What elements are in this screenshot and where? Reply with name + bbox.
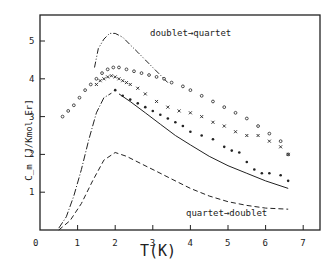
marker-dot: [268, 172, 271, 175]
marker-dot: [144, 106, 147, 109]
marker-dot: [174, 121, 177, 124]
y-tick-label: 5: [29, 36, 34, 46]
marker-cross: [155, 100, 158, 103]
marker-cross: [102, 77, 105, 80]
marker-cross: [257, 134, 260, 137]
marker-open-circle: [212, 100, 215, 103]
marker-open-circle: [170, 81, 173, 84]
marker-open-circle: [78, 96, 81, 99]
plot-area: 0123456712345: [0, 0, 335, 266]
marker-open-circle: [133, 70, 136, 73]
marker-open-circle: [155, 76, 158, 79]
y-tick-label: 1: [29, 187, 34, 197]
marker-open-circle: [163, 77, 166, 80]
x-tick-label: 4: [187, 238, 192, 248]
marker-cross: [114, 75, 117, 78]
marker-cross: [178, 109, 181, 112]
marker-dot: [279, 174, 282, 177]
marker-open-circle: [67, 110, 70, 113]
y-axis-label: C_m [J/Kmol Er]: [24, 99, 34, 180]
marker-dot: [152, 110, 155, 113]
marker-open-circle: [189, 89, 192, 92]
marker-cross: [223, 125, 226, 128]
marker-cross: [129, 83, 132, 86]
marker-open-circle: [89, 83, 92, 86]
marker-dot: [253, 168, 256, 171]
marker-cross: [200, 115, 203, 118]
x-tick-label: 1: [75, 238, 80, 248]
x-tick-label: 5: [225, 238, 230, 248]
marker-cross: [245, 134, 248, 137]
marker-open-circle: [106, 68, 109, 71]
plot-frame: [40, 15, 320, 230]
marker-open-circle: [72, 104, 75, 107]
x-axis-label: T(K): [140, 242, 176, 260]
marker-open-circle: [112, 66, 115, 69]
marker-dot: [114, 89, 117, 92]
marker-open-circle: [200, 94, 203, 97]
marker-open-circle: [268, 132, 271, 135]
marker-cross: [125, 81, 128, 84]
marker-dot: [212, 138, 215, 141]
x-tick-label: 0: [33, 238, 38, 248]
x-tick-label: 2: [112, 238, 117, 248]
marker-cross: [144, 92, 147, 95]
marker-dot: [287, 180, 290, 183]
marker-dot: [238, 151, 241, 154]
marker-cross: [110, 74, 113, 77]
marker-dot: [159, 113, 162, 116]
marker-open-circle: [140, 72, 143, 75]
marker-cross: [106, 75, 109, 78]
marker-cross: [99, 79, 102, 82]
marker-dot: [200, 134, 203, 137]
marker-open-circle: [148, 74, 151, 77]
marker-open-circle: [125, 68, 128, 71]
marker-dot: [167, 117, 170, 120]
marker-open-circle: [223, 106, 226, 109]
marker-open-circle: [234, 111, 237, 114]
marker-cross: [189, 111, 192, 114]
x-tick-label: 6: [263, 238, 268, 248]
marker-cross: [211, 121, 214, 124]
annotation-doublet-quartet: doublet→quartet: [150, 28, 231, 38]
marker-dot: [136, 102, 139, 105]
marker-dot: [246, 161, 249, 164]
marker-dot: [261, 172, 264, 175]
marker-cross: [117, 77, 120, 80]
marker-open-circle: [84, 89, 87, 92]
marker-dot: [182, 125, 185, 128]
marker-cross: [121, 79, 124, 82]
marker-cross: [268, 140, 271, 143]
marker-cross: [234, 130, 237, 133]
marker-cross: [95, 83, 98, 86]
marker-open-circle: [95, 77, 98, 80]
marker-open-circle: [101, 72, 104, 75]
marker-open-circle: [118, 66, 121, 69]
marker-dot: [230, 149, 233, 152]
y-tick-label: 4: [29, 74, 34, 84]
series-line-5: [59, 153, 288, 231]
marker-open-circle: [61, 115, 64, 118]
annotation-quartet-doublet: quartet→doublet: [186, 208, 267, 218]
marker-cross: [279, 145, 282, 148]
marker-open-circle: [181, 85, 184, 88]
marker-dot: [189, 130, 192, 133]
x-tick-label: 7: [300, 238, 305, 248]
marker-open-circle: [245, 117, 248, 120]
specific-heat-chart: 0123456712345 C_m [J/Kmol Er] T(K) doubl…: [0, 0, 335, 266]
marker-open-circle: [257, 125, 260, 128]
marker-open-circle: [279, 140, 282, 143]
marker-dot: [223, 146, 226, 149]
marker-cross: [166, 106, 169, 109]
marker-cross: [136, 87, 139, 90]
